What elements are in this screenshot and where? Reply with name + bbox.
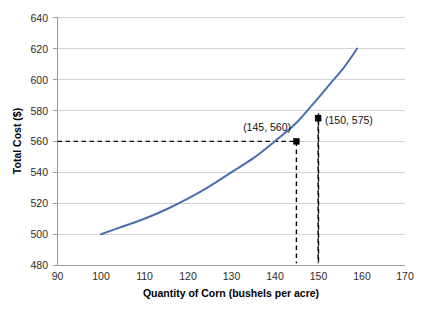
annotation-label-145-560: (145, 560) — [243, 121, 291, 133]
annotation-markers — [293, 115, 321, 145]
y-tick-label-520: 520 — [30, 197, 48, 209]
y-axis-title: Total Cost ($) — [11, 108, 23, 174]
marker-point-145-560 — [293, 138, 299, 144]
y-tick-label-500: 500 — [30, 228, 48, 240]
cost-curve-chart: 640 620 600 580 560 540 520 500 480 90 1… — [0, 0, 423, 318]
y-tick-label-620: 620 — [30, 43, 48, 55]
chart-canvas: 640 620 600 580 560 540 520 500 480 90 1… — [0, 0, 423, 318]
x-tick-label-170: 170 — [396, 270, 414, 282]
guide-lines — [58, 113, 319, 263]
x-tick-label-110: 110 — [136, 270, 153, 282]
y-tick-label-540: 540 — [30, 166, 48, 178]
annotation-label-150-575: (150, 575) — [325, 114, 373, 126]
y-tick-label-600: 600 — [30, 74, 48, 86]
x-axis-title: Quantity of Corn (bushels per acre) — [143, 287, 319, 299]
x-tick-label-160: 160 — [353, 270, 371, 282]
x-tick-label-130: 130 — [223, 270, 241, 282]
marker-point-150-575 — [315, 115, 321, 121]
y-tick-label-640: 640 — [30, 12, 48, 24]
x-tick-label-100: 100 — [92, 270, 110, 282]
y-tick-label-580: 580 — [30, 105, 48, 117]
x-tick-label-90: 90 — [52, 270, 64, 282]
x-tick-label-150: 150 — [310, 270, 328, 282]
x-tick-label-120: 120 — [179, 270, 197, 282]
y-tick-labels: 640 620 600 580 560 540 520 500 480 — [30, 12, 48, 272]
x-tick-labels: 90 100 110 120 130 140 150 160 170 — [52, 270, 414, 282]
y-tick-label-560: 560 — [30, 135, 48, 147]
x-tick-label-140: 140 — [266, 270, 284, 282]
annotation-labels: (145, 560) (150, 575) — [243, 114, 373, 133]
y-tick-label-480: 480 — [30, 259, 48, 271]
